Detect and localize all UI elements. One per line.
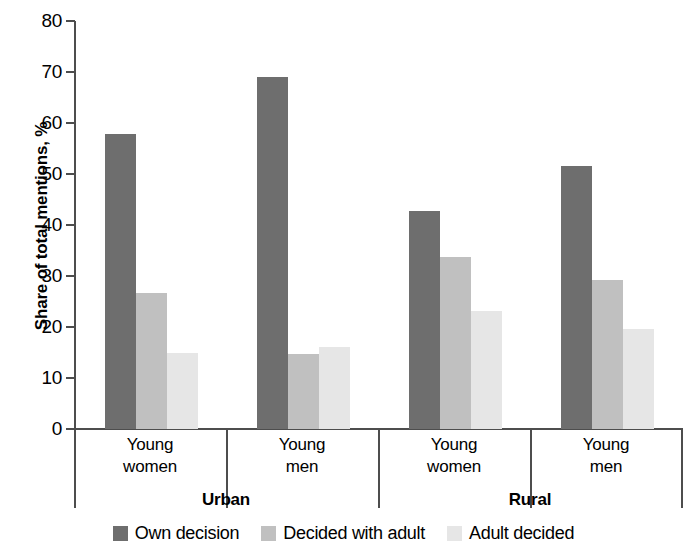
- bar: [136, 293, 167, 429]
- y-axis-tick-label: 80: [22, 11, 62, 30]
- legend-label: Adult decided: [469, 524, 574, 542]
- x-axis-category-label: Youngwomen: [378, 434, 530, 478]
- legend-label: Decided with adult: [283, 524, 425, 542]
- bar: [471, 311, 502, 429]
- y-axis-tick: [66, 326, 75, 328]
- bar: [592, 280, 623, 429]
- x-axis-category-label: Youngmen: [530, 434, 682, 478]
- y-axis-tick-label: 10: [22, 368, 62, 387]
- legend-swatch-icon: [447, 526, 462, 541]
- y-axis-tick-label: 40: [22, 215, 62, 234]
- chart-legend: Own decisionDecided with adultAdult deci…: [0, 524, 687, 542]
- y-axis-tick-label: 0: [22, 419, 62, 438]
- x-axis-group-label: Rural: [378, 490, 682, 510]
- y-axis-tick: [66, 173, 75, 175]
- bar: [561, 166, 592, 429]
- legend-item[interactable]: Decided with adult: [261, 524, 425, 542]
- y-axis-tick-label: 50: [22, 164, 62, 183]
- bar-chart-figure: Share of total mentions, % 8070605040302…: [0, 0, 687, 560]
- bar: [319, 347, 350, 429]
- y-axis-tick: [66, 20, 75, 22]
- y-axis-tick: [66, 122, 75, 124]
- y-axis-tick: [66, 224, 75, 226]
- y-axis-tick-label: 30: [22, 266, 62, 285]
- x-axis-category-label: Youngwomen: [74, 434, 226, 478]
- y-axis-tick: [66, 377, 75, 379]
- legend-swatch-icon: [113, 526, 128, 541]
- bar: [257, 77, 288, 429]
- y-axis-tick-label: 20: [22, 317, 62, 336]
- y-axis-tick: [66, 71, 75, 73]
- bar: [409, 211, 440, 429]
- bar: [105, 134, 136, 429]
- x-axis-category-label: Youngmen: [226, 434, 378, 478]
- y-axis-tick-label: 60: [22, 113, 62, 132]
- supergroup-axis-band: UrbanRural: [74, 490, 683, 520]
- legend-item[interactable]: Own decision: [113, 524, 239, 542]
- y-axis-tick-label: 70: [22, 62, 62, 81]
- bar: [440, 257, 471, 429]
- plot-area: [75, 21, 683, 429]
- y-axis-tick: [66, 275, 75, 277]
- legend-item[interactable]: Adult decided: [447, 524, 574, 542]
- legend-label: Own decision: [135, 524, 239, 542]
- bar: [167, 353, 198, 430]
- bar: [288, 354, 319, 429]
- x-axis-group-label: Urban: [74, 490, 378, 510]
- legend-swatch-icon: [261, 526, 276, 541]
- bar: [623, 329, 654, 429]
